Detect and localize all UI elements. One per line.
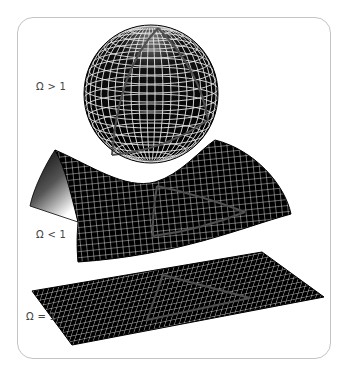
label-flat: Ω = 1 xyxy=(26,311,56,322)
label-open: Ω < 1 xyxy=(36,229,66,240)
label-closed: Ω > 1 xyxy=(36,81,66,92)
sphere-closed-universe xyxy=(84,25,218,163)
plane-flat-universe xyxy=(32,252,324,345)
